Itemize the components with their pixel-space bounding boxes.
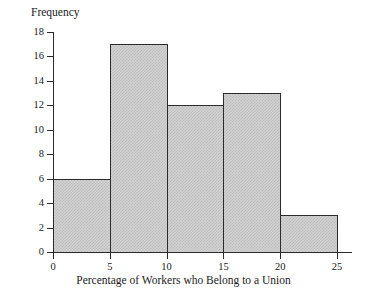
x-axis-tick: [223, 253, 224, 259]
y-axis-tick-label: 10: [4, 125, 44, 135]
plot-area: [53, 32, 337, 252]
x-axis-tick: [110, 253, 111, 259]
x-axis-tick-label: 20: [260, 261, 300, 272]
histogram-bar: [280, 215, 338, 253]
y-axis-tick-label: 4: [4, 198, 44, 208]
x-axis-tick: [280, 253, 281, 259]
y-axis-tick: [47, 105, 53, 106]
x-axis-tick-label: 10: [147, 261, 187, 272]
y-axis-tick-label: 12: [4, 100, 44, 110]
x-axis-tick-label: 25: [317, 261, 357, 272]
y-axis-tick-label: 2: [4, 223, 44, 233]
x-axis-tick-label: 5: [90, 261, 130, 272]
y-axis-tick: [47, 154, 53, 155]
x-axis-tick-label: 0: [33, 261, 73, 272]
y-axis-tick-label: 6: [4, 174, 44, 184]
histogram-bar: [167, 105, 225, 253]
y-axis-tick-label: 0: [4, 247, 44, 257]
y-axis-tick: [47, 203, 53, 204]
y-axis-tick: [47, 130, 53, 131]
x-axis-tick: [167, 253, 168, 259]
x-axis-tick: [53, 253, 54, 259]
y-axis-title: Frequency: [31, 6, 80, 19]
y-axis-tick-label: 14: [4, 76, 44, 86]
y-axis-tick: [47, 56, 53, 57]
histogram-bar: [110, 44, 168, 253]
histogram-bar: [53, 179, 111, 253]
x-axis-tick-label: 15: [203, 261, 243, 272]
y-axis-tick: [47, 32, 53, 33]
x-axis-title: Percentage of Workers who Belong to a Un…: [0, 274, 367, 287]
y-axis-tick-label: 18: [4, 27, 44, 37]
y-axis-tick-label: 16: [4, 51, 44, 61]
histogram-bar: [223, 93, 281, 253]
y-axis-tick: [47, 179, 53, 180]
histogram-chart: Frequency 024681012141618 0510152025 Per…: [0, 0, 367, 293]
y-axis-tick: [47, 81, 53, 82]
y-axis-tick: [47, 228, 53, 229]
y-axis-tick-label: 8: [4, 149, 44, 159]
x-axis-tick: [337, 253, 338, 259]
